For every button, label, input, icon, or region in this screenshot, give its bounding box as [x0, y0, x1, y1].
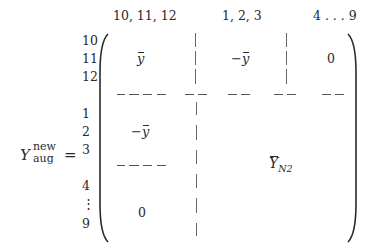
equals-sign: = — [64, 146, 77, 164]
Y-bar: Y — [269, 155, 278, 171]
block-top-middle: −y — [231, 51, 249, 66]
y-bar: y — [242, 51, 249, 66]
matrix-name: Y new aug — [20, 146, 30, 164]
matrix-subscript: aug — [33, 152, 54, 165]
block-top-left: y — [137, 51, 144, 66]
horizontal-separator-dash-5 — [322, 94, 344, 95]
vertical-separator-2-top — [286, 33, 287, 85]
y-bar: y — [142, 124, 149, 139]
column-header-1-2-3: 1, 2, 3 — [222, 8, 262, 23]
horizontal-separator-lower-left — [117, 165, 167, 166]
matrix-symbol: Y — [20, 146, 30, 164]
horizontal-separator-dash-3 — [228, 94, 250, 95]
minus-sign: − — [231, 51, 242, 66]
block-middle-left: −y — [131, 124, 149, 139]
subscript-N2: N2 — [278, 163, 292, 174]
minus-sign: − — [131, 124, 142, 139]
horizontal-separator-dash-4 — [274, 94, 296, 95]
right-parenthesis — [345, 32, 359, 244]
y-bar: y — [137, 51, 144, 66]
block-lower-right: YN2 — [269, 155, 293, 171]
left-parenthesis — [98, 32, 112, 244]
block-bottom-left: 0 — [138, 205, 146, 220]
horizontal-separator-left — [117, 94, 167, 95]
column-header-4-to-9: 4 . . . 9 — [313, 8, 357, 23]
vertical-separator-1-bottom — [196, 102, 197, 236]
horizontal-separator-dash-2 — [185, 94, 207, 95]
column-header-10-11-12: 10, 11, 12 — [113, 8, 177, 23]
block-top-right: 0 — [327, 51, 335, 66]
vertical-separator-1-top — [195, 33, 196, 85]
